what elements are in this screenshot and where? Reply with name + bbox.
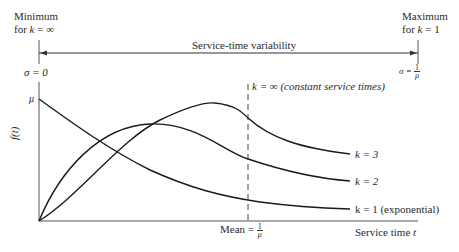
curve-label-k3: k = 3 (355, 148, 378, 160)
min-label-line2: for k = ∞ (14, 23, 54, 35)
max-label-suffix: = 1 (422, 23, 439, 35)
curve-label-k2: k = 2 (355, 175, 378, 187)
max-label-prefix: for (402, 23, 418, 35)
y-axis-label: f(t) (8, 127, 20, 140)
k-infinity-label: k = ∞ (constant service times) (252, 80, 385, 92)
min-label-line1: Minimum (14, 10, 58, 22)
x-axis-label: Service time t (355, 226, 416, 238)
min-label-suffix: = ∞ (34, 23, 54, 35)
min-label-prefix: for (14, 23, 30, 35)
sigma-max-label: σ = 1μ (399, 64, 420, 79)
mean-label: Mean = 1μ (220, 223, 263, 238)
curve-label-k1: k = 1 (exponential) (355, 203, 439, 215)
y-tick-mu: μ (29, 93, 34, 105)
arrow-head-left-icon (40, 51, 47, 56)
curve-k3 (39, 103, 350, 221)
curve-k1 (39, 99, 350, 209)
mean-fraction: 1μ (257, 223, 263, 238)
sigma-max-prefix: σ = (399, 66, 414, 76)
x-axis-label-prefix: Service time (355, 226, 413, 238)
max-label-line2: for k = 1 (402, 23, 440, 35)
mean-label-prefix: Mean = (220, 223, 257, 235)
max-label-line1: Maximum (402, 10, 448, 22)
x-axis-label-var: t (413, 226, 416, 238)
sigma-max-fraction: 1μ (414, 64, 420, 79)
sigma-min-label: σ = 0 (24, 66, 48, 78)
arrow-head-right-icon (410, 51, 417, 56)
variability-label: Service-time variability (190, 39, 298, 51)
